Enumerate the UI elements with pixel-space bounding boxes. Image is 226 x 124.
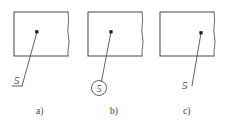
panel-caption-b: b): [110, 106, 118, 117]
value-label-c: 5: [182, 79, 188, 91]
panel-a: 5 a): [12, 12, 69, 117]
value-label-a: 5: [14, 74, 20, 86]
leader-line-c: [192, 33, 201, 86]
technical-drawing-svg: 5 a) 5 b) 5 c): [0, 0, 226, 124]
panel-caption-c: c): [183, 106, 190, 117]
reference-point-dot-a: [35, 30, 38, 33]
panel-b: 5 b): [88, 12, 143, 117]
reference-point-dot-b: [109, 30, 112, 33]
panel-caption-a: a): [36, 106, 43, 117]
leader-line-a: [22, 32, 37, 86]
value-label-b: 5: [97, 84, 102, 94]
figure-container: 5 a) 5 b) 5 c): [0, 0, 226, 124]
break-line-b: [142, 12, 143, 56]
part-outline-c: [160, 12, 214, 56]
break-line-c: [214, 12, 215, 56]
part-outline-b: [88, 12, 142, 56]
leader-line-b: [102, 32, 112, 81]
reference-point-dot-c: [199, 31, 202, 34]
break-line-a: [68, 12, 69, 56]
panel-c: 5 c): [160, 12, 215, 117]
part-outline-a: [14, 12, 68, 56]
